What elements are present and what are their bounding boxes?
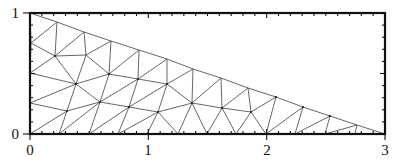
mesh-node [137,78,139,80]
mesh-node [128,106,130,108]
mesh-edge [192,103,207,134]
mesh-edge [109,74,138,79]
mesh-node [302,106,304,108]
mesh-edge [109,41,111,74]
mesh-edge [355,125,357,134]
mesh-edge [129,107,158,112]
mesh-edge [67,84,76,111]
mesh-node [250,111,252,113]
mesh-edge [178,103,192,134]
mesh-edge [251,112,266,134]
x-tick-label-3: 3 [381,142,389,158]
mesh-node [108,73,110,75]
mesh-node [157,111,159,113]
mesh-edge [295,116,330,134]
mesh-edge [31,43,55,56]
mesh-edge [89,107,129,134]
mesh-edge [221,78,248,88]
mesh-edge [167,69,193,84]
x-axis-labels: 0 1 2 3 [26,142,389,158]
mesh-edge [67,102,100,111]
mesh-edge [86,41,111,55]
mesh-edge [158,103,192,112]
mesh-edge [248,88,276,97]
mesh-edge [138,79,167,84]
mesh-edge [31,22,57,43]
mesh-edge [55,55,86,56]
mesh-edge [158,112,178,134]
mesh-edge [100,79,138,102]
mesh-node [66,110,68,112]
axis-ticks [23,13,385,140]
mesh-edge [295,107,303,134]
mesh-edge [138,50,139,79]
mesh-edge [222,88,248,108]
mesh-edge [57,22,84,32]
mesh-edge [111,41,139,50]
mesh-node [191,102,193,104]
mesh-edge [192,103,222,108]
mesh-edge [30,13,57,22]
y-tick-label-0: 0 [12,126,20,142]
x-tick-label-1: 1 [144,142,152,158]
mesh-edge [167,59,193,69]
mesh-edge [30,84,76,103]
mesh-edge [325,125,357,134]
y-tick-label-1: 1 [12,5,20,21]
mesh-edge [30,103,67,111]
mesh-edge [30,56,55,73]
mesh-edge [167,84,192,103]
mesh-node [54,55,56,57]
mesh-edge [84,32,111,41]
y-axis-labels: 0 1 [12,5,20,142]
x-tick-label-0: 0 [26,142,34,158]
mesh-node [99,101,101,103]
mesh-node [329,115,331,117]
mesh-edge [59,102,100,134]
mesh-edge [55,22,57,56]
mesh-edge [30,111,67,134]
x-tick-label-2: 2 [263,142,271,158]
mesh-edge [76,74,109,84]
mesh-edge [138,59,167,79]
mesh-edge [207,108,222,134]
mesh-edge [221,78,222,108]
mesh-edge [266,107,303,134]
mesh-edge [84,32,86,55]
mesh-edges [30,13,385,134]
mesh-edge [55,32,84,56]
mesh-edge [222,108,251,112]
mesh-edge [76,84,100,102]
mesh-edge [86,55,109,74]
mesh-edge [248,88,251,112]
mesh-edge [76,55,86,84]
mesh-node [166,83,168,85]
mesh-edge [222,108,236,134]
mesh-edge [192,69,193,103]
mesh-diagram: 0 1 2 3 0 1 [0,0,402,167]
mesh-edge [109,50,139,74]
mesh-edge [276,97,303,107]
mesh-edge [193,69,221,78]
mesh-edge [192,78,221,103]
mesh-node [221,107,223,109]
mesh-edge [236,112,251,134]
mesh-node [75,83,77,85]
mesh-edge [129,84,167,107]
mesh-edge [100,102,129,107]
mesh-edge [330,116,357,125]
mesh-edge [139,50,167,59]
mesh-node [275,96,277,98]
mesh-edge [303,107,330,116]
